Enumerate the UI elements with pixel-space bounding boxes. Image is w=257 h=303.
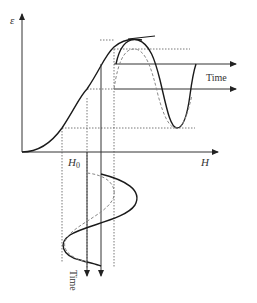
tangent-line xyxy=(128,36,155,39)
field-excitation-solid xyxy=(63,174,137,266)
bias-field-subscript: 0 xyxy=(76,161,80,170)
guide-lines xyxy=(62,40,195,268)
bias-field-label: H0 xyxy=(67,156,80,170)
strain-response-solid xyxy=(116,40,196,128)
excitation-time-axes xyxy=(87,152,101,276)
axes xyxy=(22,14,218,152)
magnetostriction-diagram: ε H H0 Time Time xyxy=(0,0,257,303)
y-axis-label: ε xyxy=(10,14,15,26)
x-axis-label: H xyxy=(200,156,210,168)
field-excitation-dashed xyxy=(65,173,115,262)
time-label-vertical: Time xyxy=(68,270,79,291)
strain-field-curve xyxy=(22,39,142,152)
time-label-horizontal: Time xyxy=(206,72,227,83)
